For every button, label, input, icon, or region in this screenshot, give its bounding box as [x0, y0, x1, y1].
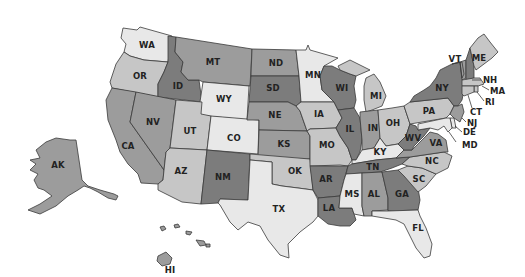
- label-nc: NC: [425, 156, 439, 166]
- label-md: MD: [462, 140, 478, 150]
- label-me: ME: [472, 53, 487, 63]
- label-ms: MS: [345, 189, 360, 199]
- label-co: CO: [227, 133, 241, 143]
- label-in: IN: [368, 123, 379, 133]
- us-map: WA OR CA ID NV MT WY UT CO AZ NM ND SD N…: [0, 0, 525, 277]
- label-hi: HI: [165, 265, 176, 275]
- label-wy: WY: [216, 94, 233, 104]
- label-al: AL: [368, 189, 381, 199]
- label-sd: SD: [266, 83, 280, 93]
- label-ky: KY: [373, 147, 387, 157]
- label-ne: NE: [268, 110, 281, 120]
- state-ma[interactable]: [462, 78, 484, 86]
- label-wi: WI: [336, 83, 349, 93]
- label-vt: VT: [449, 54, 462, 64]
- label-pa: PA: [423, 106, 436, 116]
- label-ok: OK: [288, 166, 302, 176]
- state-az[interactable]: [158, 148, 207, 204]
- label-ga: GA: [395, 189, 409, 199]
- state-hi[interactable]: [157, 224, 210, 266]
- label-ri: RI: [485, 97, 495, 107]
- label-il: IL: [346, 124, 355, 134]
- state-ak[interactable]: [28, 138, 118, 214]
- label-ca: CA: [121, 141, 134, 151]
- label-ks: KS: [277, 139, 290, 149]
- state-ct[interactable]: [462, 86, 474, 96]
- label-la: LA: [323, 203, 336, 213]
- label-mt: MT: [206, 57, 221, 67]
- label-nv: NV: [146, 117, 160, 127]
- label-id: ID: [173, 81, 184, 91]
- label-ar: AR: [319, 174, 333, 184]
- label-ct: CT: [470, 107, 482, 117]
- label-ut: UT: [183, 126, 196, 136]
- label-mi: MI: [370, 91, 382, 101]
- label-nm: NM: [215, 172, 231, 182]
- label-or: OR: [133, 71, 147, 81]
- label-wv: WV: [405, 133, 422, 143]
- label-tn: TN: [366, 162, 379, 172]
- label-ia: IA: [314, 109, 324, 119]
- label-oh: OH: [386, 118, 401, 128]
- label-tx: TX: [273, 204, 286, 214]
- label-nh: NH: [483, 75, 497, 85]
- label-az: AZ: [174, 166, 187, 176]
- state-fl[interactable]: [372, 210, 432, 258]
- label-mn: MN: [305, 70, 321, 80]
- label-fl: FL: [412, 223, 424, 233]
- label-ny: NY: [435, 83, 449, 93]
- state-ri[interactable]: [474, 86, 478, 92]
- label-de: DE: [463, 127, 476, 137]
- label-nd: ND: [269, 58, 284, 68]
- label-sc: SC: [413, 174, 426, 184]
- label-va: VA: [430, 138, 443, 148]
- label-wa: WA: [139, 40, 155, 50]
- label-mo: MO: [319, 140, 335, 150]
- label-ak: AK: [51, 160, 65, 170]
- label-ma: MA: [490, 86, 505, 96]
